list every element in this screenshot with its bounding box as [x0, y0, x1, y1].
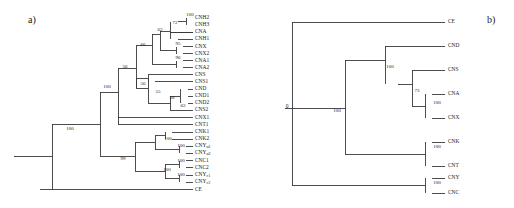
taxon-label-b-CND: CND — [448, 42, 459, 48]
tree-b-taxon-labels: CECNDCNSCNACNXCNKCNTCNYCNC — [448, 18, 459, 195]
taxon-label-b-CE: CE — [448, 18, 456, 24]
taxon-label-b-CNS: CNS — [448, 66, 459, 72]
taxon-label-b-CNA: CNA — [448, 90, 459, 96]
tree-b-root-value: 0 — [286, 103, 289, 109]
taxon-label-b-CNX: CNX — [448, 114, 459, 120]
tree-b-root-label: 0 — [286, 103, 289, 109]
boot-b-100-upper: 100 — [386, 64, 394, 69]
boot-b-100-cnyc: 100 — [433, 180, 441, 185]
boot-b-100-cnkt: 100 — [433, 144, 441, 149]
tree-b-branches — [285, 22, 445, 193]
phylogenetic-tree-b: CECNDCNSCNACNXCNKCNTCNYCNC 1001007310010… — [0, 0, 514, 208]
taxon-label-b-CNT: CNT — [448, 162, 459, 168]
boot-b-73: 73 — [415, 88, 421, 93]
boot-b-100-main: 100 — [333, 108, 341, 113]
taxon-label-b-CNK: CNK — [448, 138, 459, 144]
taxon-label-b-CNC: CNC — [448, 189, 459, 195]
boot-b-100-cnax: 100 — [433, 100, 441, 105]
tree-b-bootstrap-labels: 10010073100100100 — [333, 64, 441, 185]
taxon-label-b-CNY: CNY — [448, 174, 459, 180]
figure-root: a) b) CNH2CNH3CNACNH1CNXCNX2CNA1CNA2CNSC… — [0, 0, 514, 208]
